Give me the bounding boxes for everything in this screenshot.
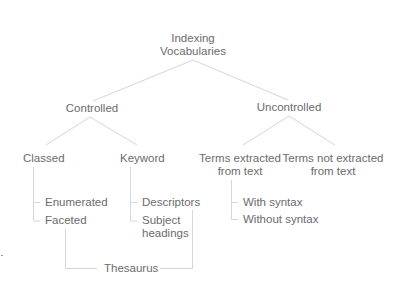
root-node: Indexing Vocabularies (160, 32, 226, 58)
edge-keyword-subject (131, 167, 138, 221)
subject-line2: headings (142, 227, 189, 240)
edge-controlled-keyword (90, 117, 137, 145)
node-faceted: Faceted (45, 214, 87, 227)
node-subject-headings: Subject headings (142, 214, 189, 240)
terms-not-extracted-line1: Terms not extracted (283, 152, 384, 165)
node-classed: Classed (23, 152, 65, 165)
node-without-syntax: Without syntax (243, 213, 318, 226)
node-descriptors: Descriptors (142, 196, 200, 209)
edge-controlled-classed (46, 117, 90, 145)
subject-line1: Subject (142, 214, 189, 227)
edge-uncontrolled-extracted (243, 116, 289, 145)
terms-not-extracted-line2: from text (283, 165, 384, 178)
edge-uncontrolled-not-extracted (289, 116, 335, 145)
node-enumerated: Enumerated (45, 196, 108, 209)
edge-faceted-thesaurus (66, 229, 98, 269)
node-thesaurus: Thesaurus (104, 262, 158, 275)
edge-extracted-without (232, 180, 239, 220)
node-keyword: Keyword (120, 152, 165, 165)
node-controlled: Controlled (66, 102, 118, 115)
root-line1: Indexing (160, 32, 226, 45)
terms-extracted-line1: Terms extracted (199, 152, 281, 165)
terms-extracted-line2: from text (199, 165, 281, 178)
node-terms-extracted: Terms extracted from text (199, 152, 281, 178)
root-line2: Vocabularies (160, 45, 226, 58)
edge-root-controlled (93, 60, 193, 101)
node-terms-not-extracted: Terms not extracted from text (283, 152, 384, 178)
edge-classed-faceted (34, 167, 41, 221)
edge-root-uncontrolled (193, 60, 288, 100)
node-uncontrolled: Uncontrolled (257, 101, 322, 114)
node-with-syntax: With syntax (243, 196, 302, 209)
